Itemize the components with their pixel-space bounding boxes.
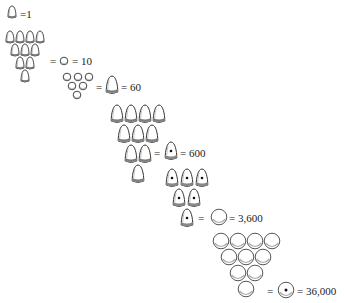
- value-label: = 600: [180, 147, 205, 159]
- small-cone-icon: [35, 30, 45, 44]
- punched-large-cone-icon: [195, 168, 209, 188]
- punched-large-sphere-icon: [277, 281, 295, 299]
- large-sphere-icon: [210, 208, 228, 226]
- equals-sign: =: [50, 55, 56, 67]
- small-cone-icon: [20, 69, 30, 83]
- large-sphere-icon: [237, 280, 255, 298]
- value-label: = 3,600: [229, 212, 263, 224]
- small-cone-icon: [25, 30, 35, 44]
- small-cone-icon: [25, 56, 35, 70]
- large-cone-icon: [117, 124, 131, 144]
- punched-large-cone-icon: [180, 168, 194, 188]
- large-cone-icon: [152, 104, 166, 124]
- value-label: = 10: [72, 55, 92, 67]
- large-cone-icon: [124, 104, 138, 124]
- large-cone-icon: [138, 144, 152, 164]
- punched-large-cone-icon: [180, 208, 194, 228]
- equals-sign: =: [154, 147, 160, 159]
- small-sphere-icon: [72, 90, 82, 100]
- large-cone-icon: [131, 164, 145, 184]
- punched-large-cone-icon: [164, 141, 178, 161]
- small-cone-icon: [5, 30, 15, 44]
- small-cone-icon: [20, 43, 30, 57]
- small-cone-icon: [10, 43, 20, 57]
- punched-large-cone-icon: [187, 188, 201, 208]
- small-cone-icon: [30, 43, 40, 57]
- large-cone-icon: [110, 104, 124, 124]
- large-cone-icon: [145, 124, 159, 144]
- punched-large-cone-icon: [172, 188, 186, 208]
- large-cone-icon: [105, 75, 119, 95]
- value-label: =1: [20, 8, 32, 20]
- small-cone-icon: [15, 30, 25, 44]
- punched-large-cone-icon: [165, 168, 179, 188]
- value-label: = 60: [121, 81, 141, 93]
- small-cone-icon: [15, 56, 25, 70]
- value-label: = 36,000: [297, 285, 336, 297]
- equals-sign: =: [267, 285, 273, 297]
- equals-sign: =: [198, 212, 204, 224]
- large-cone-icon: [131, 124, 145, 144]
- equals-sign: =: [96, 81, 102, 93]
- small-cone-icon: [7, 5, 17, 19]
- small-sphere-icon: [59, 56, 69, 66]
- large-cone-icon: [138, 104, 152, 124]
- large-cone-icon: [124, 144, 138, 164]
